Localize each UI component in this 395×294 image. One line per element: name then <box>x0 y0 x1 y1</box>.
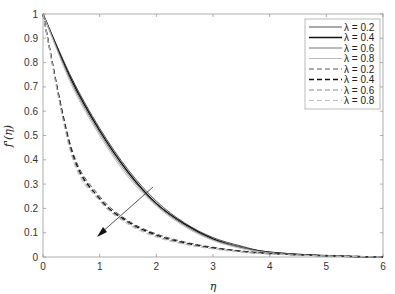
y-tick-label: 0.4 <box>24 154 38 165</box>
y-tick-label: 0.6 <box>24 106 38 117</box>
y-tick-label: 0.3 <box>24 179 38 190</box>
legend-label: λ = 0.8 <box>344 53 375 64</box>
legend-label: λ = 0.4 <box>344 74 375 85</box>
x-tick-label: 6 <box>380 261 386 272</box>
line-chart: 00.10.20.30.40.50.60.70.80.91 0123456 η … <box>0 0 395 294</box>
legend-label: λ = 0.2 <box>344 64 375 75</box>
x-tick-label: 1 <box>97 261 103 272</box>
legend: λ = 0.2λ = 0.4λ = 0.6λ = 0.8λ = 0.2λ = 0… <box>305 19 380 109</box>
legend-label: λ = 0.8 <box>344 95 375 106</box>
x-axis-label: η <box>210 280 217 293</box>
legend-label: λ = 0.2 <box>344 22 375 33</box>
legend-label: λ = 0.6 <box>344 43 375 54</box>
y-tick-label: 0.5 <box>24 130 38 141</box>
x-tick-label: 3 <box>210 261 216 272</box>
x-tick-label: 5 <box>324 261 330 272</box>
x-tick-label: 2 <box>154 261 160 272</box>
y-tick-label: 0.8 <box>24 57 38 68</box>
y-tick-label: 0.2 <box>24 203 38 214</box>
y-tick-label: 0.7 <box>24 81 38 92</box>
y-axis-label: f'(η) <box>2 125 15 148</box>
y-tick-label: 0.1 <box>24 227 38 238</box>
x-tick-label: 0 <box>40 261 46 272</box>
y-tick-label: 0 <box>32 252 38 263</box>
x-tick-label: 4 <box>267 261 273 272</box>
legend-label: λ = 0.4 <box>344 32 375 43</box>
y-tick-label: 0.9 <box>24 33 38 44</box>
y-tick-label: 1 <box>32 9 38 20</box>
legend-label: λ = 0.6 <box>344 85 375 96</box>
